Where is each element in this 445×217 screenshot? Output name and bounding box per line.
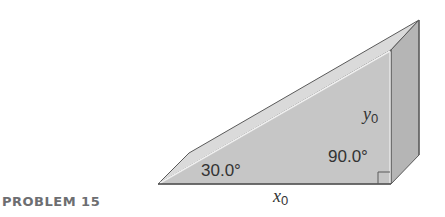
x0-label: x0 bbox=[273, 186, 288, 208]
y0-var: y bbox=[363, 104, 371, 124]
angle-90-label: 90.0° bbox=[328, 147, 368, 167]
x0-sub: 0 bbox=[281, 193, 288, 208]
y0-label: y0 bbox=[363, 104, 378, 126]
problem-number-label: PROBLEM 15 bbox=[2, 194, 100, 209]
y0-sub: 0 bbox=[371, 111, 378, 126]
x0-var: x bbox=[273, 186, 281, 206]
angle-30-label: 30.0° bbox=[201, 161, 241, 181]
wedge-diagram bbox=[0, 0, 445, 217]
